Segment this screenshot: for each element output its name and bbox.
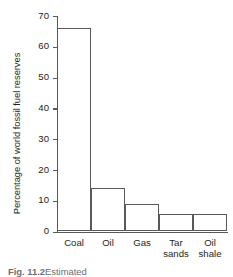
bar-coal [57,28,91,231]
x-axis-label-oil-shale: Oil shale [187,237,233,260]
y-axis-tick-label: 50 [38,71,49,83]
y-axis-tick-label: 70 [38,10,49,22]
y-axis-tick-label: 0 [44,225,49,237]
y-axis-tick: 70 [53,16,58,17]
plot-area: 010203040506070 CoalOilGasTar sandsOil s… [57,16,227,232]
bar-oil-shale [193,214,227,231]
figure-caption: Fig. 11.2Estimated [8,266,87,277]
y-axis-title: Percentage of world fossil fuel reserves [11,26,22,242]
bar-gas [125,204,159,232]
caption-text: Estimated [45,266,87,277]
bar-tar-sands [159,214,193,231]
y-axis-tick-label: 10 [38,194,49,206]
y-axis-tick: 0 [53,232,58,233]
bar-oil [91,188,125,231]
caption-figure-number: Fig. 11.2 [8,266,45,277]
x-axis-line [57,232,228,233]
y-axis-tick-label: 20 [38,164,49,176]
y-axis-tick-label: 60 [38,40,49,52]
y-axis-tick-label: 40 [38,102,49,114]
y-axis-tick-label: 30 [38,133,49,145]
